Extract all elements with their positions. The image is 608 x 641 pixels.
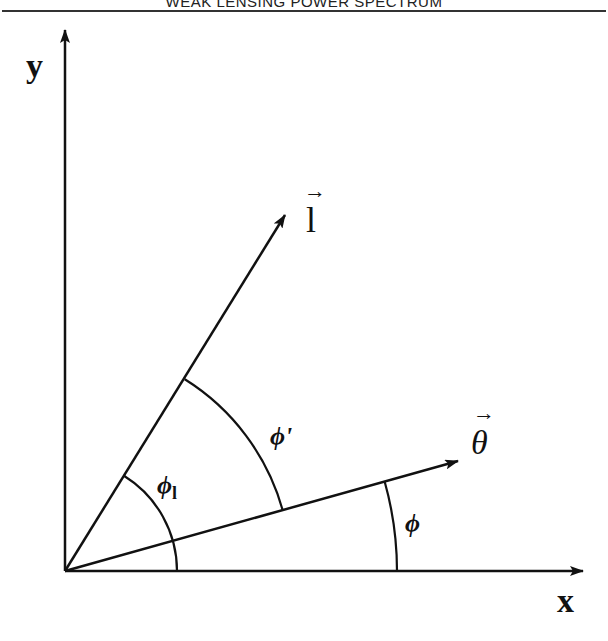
vector-diagram: y x l → θ → ϕ' ϕl ϕ: [0, 0, 608, 641]
phi-l-label: ϕl: [157, 471, 177, 503]
phi-label: ϕ: [405, 509, 420, 538]
phi-l-subscript: l: [172, 483, 177, 503]
theta-vector-label: θ: [471, 424, 488, 461]
l-vector-arrow-icon: →: [304, 178, 326, 203]
theta-vector-arrow-icon: →: [473, 400, 495, 425]
y-axis-label: y: [26, 47, 43, 84]
phi-prime-arc: [185, 379, 283, 510]
phi-prime-label: ϕ': [270, 422, 292, 451]
l-vector-label: l: [306, 200, 316, 240]
phi-arc: [385, 482, 397, 571]
x-axis-label: x: [557, 582, 574, 619]
